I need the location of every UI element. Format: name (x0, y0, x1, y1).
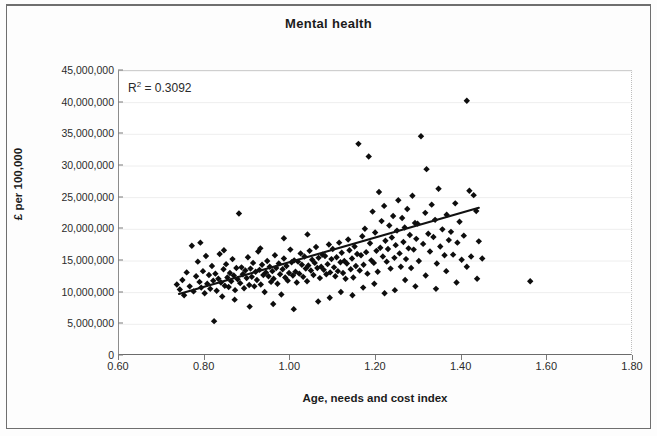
x-tick-label: 1.60 (516, 360, 576, 372)
scatter-point (386, 222, 392, 228)
y-tick-label: 45,000,000 (28, 64, 114, 76)
scatter-point (189, 243, 195, 249)
scatter-point (197, 239, 203, 245)
gridlines (119, 71, 633, 324)
scatter-point (364, 270, 370, 276)
scatter-point (474, 276, 480, 282)
scatter-point (375, 269, 381, 275)
scatter-point (241, 285, 247, 291)
scatter-point (454, 239, 460, 245)
r-squared-annotation: R2 = 0.3092 (128, 80, 192, 95)
plot-area (118, 70, 632, 355)
scatter-point (437, 243, 443, 249)
x-tick-mark (289, 355, 290, 360)
scatter-point (233, 265, 239, 271)
x-tick-mark (204, 355, 205, 360)
scatter-point (274, 281, 280, 287)
scatter-point (183, 269, 189, 275)
scatter-point (420, 241, 426, 247)
scatter-point (400, 239, 406, 245)
r-symbol: R (128, 81, 137, 95)
scatter-point (196, 279, 202, 285)
y-axis-tick-labels: 05,000,00010,000,00015,000,00020,000,000… (22, 70, 114, 355)
scatter-point (174, 281, 180, 287)
scatter-point (236, 210, 242, 216)
chart-title: Mental health (0, 16, 657, 31)
scatter-point (350, 274, 356, 280)
scatter-point (378, 218, 384, 224)
scatter-point (441, 252, 447, 258)
scatter-point (372, 229, 378, 235)
scatter-canvas (119, 71, 633, 356)
x-tick-mark (118, 355, 119, 360)
scatter-point (346, 247, 352, 253)
scatter-point (246, 303, 252, 309)
scatter-point (245, 254, 251, 260)
scatter-point (366, 153, 372, 159)
scatter-point (348, 266, 354, 272)
scatter-point (254, 277, 260, 283)
scatter-point (398, 264, 404, 270)
scatter-point (195, 258, 201, 264)
scatter-point (324, 261, 330, 267)
scatter-point (380, 253, 386, 259)
scatter-point (423, 166, 429, 172)
scatter-point (390, 213, 396, 219)
scatter-point (428, 201, 434, 207)
chart-figure: Mental health £ per 100,000 05,000,00010… (0, 0, 657, 436)
scatter-point (219, 293, 225, 299)
scatter-point (272, 252, 278, 258)
scatter-point (287, 246, 293, 252)
scatter-point (336, 239, 342, 245)
scatter-point (258, 281, 264, 287)
scatter-point (216, 251, 222, 257)
scatter-point (209, 263, 215, 269)
y-tick-label: 25,000,000 (28, 191, 114, 203)
y-tick-mark (118, 228, 123, 229)
y-tick-mark (118, 101, 123, 102)
scatter-point (433, 286, 439, 292)
scatter-point (261, 289, 267, 295)
x-axis-tick-labels: 0.600.801.001.201.401.601.80 (118, 360, 632, 380)
y-tick-mark (118, 323, 123, 324)
scatter-point (313, 244, 319, 250)
r-value: = 0.3092 (144, 81, 191, 95)
scatter-point (315, 298, 321, 304)
scatter-point (363, 249, 369, 255)
scatter-point (389, 234, 395, 240)
scatter-point (381, 290, 387, 296)
scatter-point (326, 241, 332, 247)
scatter-point (353, 263, 359, 269)
x-axis-title: Age, needs and cost index (118, 392, 632, 404)
scatter-point (446, 237, 452, 243)
scatter-point (387, 265, 393, 271)
scatter-point (333, 254, 339, 260)
scatter-point (221, 247, 227, 253)
y-tick-label: 35,000,000 (28, 127, 114, 139)
scatter-point (476, 238, 482, 244)
scatter-point (186, 283, 192, 289)
scatter-point (404, 206, 410, 212)
x-tick-label: 0.80 (174, 360, 234, 372)
y-tick-mark (118, 196, 123, 197)
scatter-point (270, 301, 276, 307)
scatter-point (206, 272, 212, 278)
scatter-point (396, 250, 402, 256)
scatter-point (422, 272, 428, 278)
x-tick-label: 1.80 (602, 360, 657, 372)
scatter-points (174, 98, 534, 325)
scatter-point (281, 235, 287, 241)
scatter-point (427, 248, 433, 254)
x-tick-label: 1.40 (431, 360, 491, 372)
scatter-point (357, 267, 363, 273)
scatter-point (359, 233, 365, 239)
scatter-point (212, 270, 218, 276)
scatter-point (345, 236, 351, 242)
y-tick-mark (118, 291, 123, 292)
y-tick-label: 10,000,000 (28, 286, 114, 298)
x-tick-label: 1.20 (345, 360, 405, 372)
scatter-point (393, 242, 399, 248)
scatter-point (201, 290, 207, 296)
x-tick-mark (461, 355, 462, 360)
scatter-point (456, 219, 462, 225)
